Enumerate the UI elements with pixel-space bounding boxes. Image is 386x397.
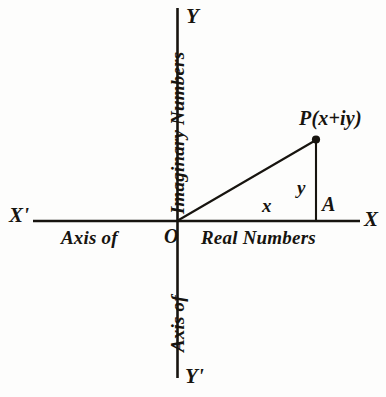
axis-label-x: X: [364, 209, 378, 230]
point-p-marker: [312, 135, 320, 143]
segment-label-x: x: [262, 196, 272, 215]
imaginary-axis-caption-upper: Imaginary Numbers: [168, 52, 187, 214]
axis-label-y: Y: [186, 6, 199, 27]
point-label-p: P(x+iy): [299, 108, 362, 128]
point-label-origin: O: [164, 226, 179, 246]
imaginary-axis-caption-lower: Axis of: [168, 295, 187, 352]
real-axis-caption-right: Real Numbers: [201, 228, 316, 247]
axis-label-x-prime: X': [9, 205, 29, 226]
real-axis-caption-left: Axis of: [61, 228, 118, 247]
point-label-a: A: [322, 194, 336, 214]
argand-diagram-figure: Y Y' X X' P(x+iy) O A x y Axis of Real N…: [0, 0, 386, 397]
axis-label-y-prime: Y': [185, 366, 204, 387]
segment-label-y: y: [297, 178, 306, 197]
segment-op: [177, 140, 316, 221]
